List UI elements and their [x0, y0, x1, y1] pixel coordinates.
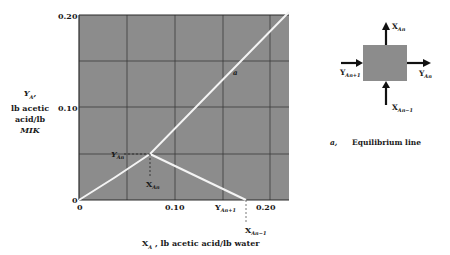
y-axis-unit-3: MIK [0, 125, 60, 136]
chart-svg: 0.20 0.10 0 0 0.10 0.20 a YAn XAn YAn+1 … [0, 0, 450, 255]
legend-label: Equilibrium line [352, 138, 421, 147]
plot-area [79, 15, 289, 200]
y-axis-unit-2: acid/lb [0, 114, 60, 125]
stage-right-label: YAn [418, 69, 432, 79]
arrow-up-icon [382, 81, 390, 88]
y-tick-0.10: 0.10 [58, 103, 78, 113]
y-axis-unit-1: lb acetic [0, 103, 60, 114]
curve-label-a: a [233, 68, 238, 77]
x-tick-0.20: 0.20 [256, 202, 276, 212]
stage-box [363, 45, 407, 81]
y-axis-label: YA, lb acetic acid/lb MIK [0, 88, 60, 136]
label-y-an1: YAn+1 [214, 202, 236, 213]
legend: a, Equilibrium line [330, 138, 421, 147]
stage-left-label: YAn+1 [339, 68, 361, 78]
y-tick-0.20: 0.20 [58, 11, 78, 21]
label-x-an-1: XAn−1 [245, 225, 266, 236]
stage-diagram: XAn YAn+1 YAn XAn−1 [339, 22, 432, 113]
arrow-right-icon [423, 59, 431, 67]
figure: 0.20 0.10 0 0 0.10 0.20 a YAn XAn YAn+1 … [0, 0, 450, 255]
x-tick-0.10: 0.10 [165, 202, 185, 212]
stage-top-label: XAn [392, 22, 406, 32]
x-tick-0: 0 [77, 202, 83, 212]
x-axis-label: XA , lb acetic acid/lb water [142, 238, 260, 250]
stage-bottom-label: XAn−1 [392, 103, 413, 113]
legend-symbol: a, [330, 138, 337, 147]
y-axis-symbol: YA, [0, 88, 60, 103]
arrow-right-icon [356, 59, 363, 67]
arrow-up-icon [382, 22, 390, 30]
